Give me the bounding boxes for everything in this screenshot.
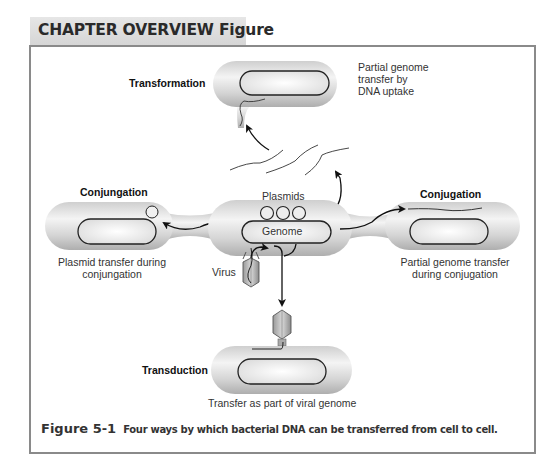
conjugation-right-description: Partial genome transfer during conjugati… bbox=[388, 256, 522, 280]
uptake-arrow bbox=[247, 126, 269, 150]
dna-fragments bbox=[230, 145, 349, 175]
plasmid-circle bbox=[293, 207, 306, 220]
transformation-label: Transformation bbox=[129, 77, 205, 89]
virus-label: Virus bbox=[212, 266, 236, 278]
transduction-cell bbox=[211, 342, 352, 394]
transducing-virus-icon bbox=[273, 310, 291, 346]
conjugation-right-cell bbox=[385, 202, 520, 250]
conjugation-left-label: Conjungation bbox=[80, 186, 148, 198]
conjugation-left-cell bbox=[45, 202, 173, 250]
genome-label: Genome bbox=[262, 225, 302, 237]
plasmids-label: Plasmids bbox=[262, 190, 305, 202]
plasmid-circle bbox=[261, 207, 274, 220]
figure-caption-text: Four ways by which bacterial DNA can be … bbox=[123, 424, 497, 435]
figure-number: Figure 5-1 bbox=[41, 421, 116, 436]
transduction-label: Transduction bbox=[142, 364, 208, 376]
transformation-cell bbox=[213, 61, 337, 128]
plasmid-circle bbox=[277, 207, 290, 220]
figure-caption: Figure 5-1Four ways by which bacterial D… bbox=[41, 419, 498, 437]
transformation-description: Partial genome transfer by DNA uptake bbox=[358, 61, 429, 97]
transduction-description: Transfer as part of viral genome bbox=[208, 397, 356, 409]
conjugation-left-description: Plasmid transfer during conjungation bbox=[46, 256, 178, 280]
conjugation-right-label: Conjugation bbox=[420, 188, 481, 200]
